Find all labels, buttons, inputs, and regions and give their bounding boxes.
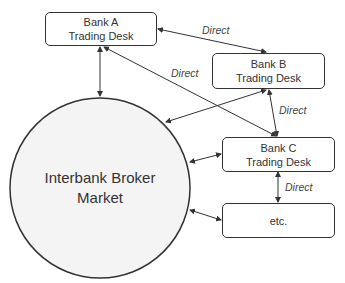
bank-a-line2: Trading Desk — [68, 29, 133, 43]
edge-etc-market — [190, 210, 221, 220]
edge-label-c-etc: Direct — [285, 181, 312, 193]
edge-c-market — [190, 154, 221, 162]
bank-a-node: Bank A Trading Desk — [45, 12, 157, 46]
edge-label-b-c: Direct — [279, 104, 306, 116]
bank-b-line2: Trading Desk — [236, 71, 301, 85]
bank-c-line2: Trading Desk — [246, 155, 311, 169]
bank-a-line1: Bank A — [84, 15, 119, 29]
etc-label: etc. — [270, 214, 288, 228]
market-node-label: Interbank Broker Market — [20, 168, 180, 208]
edge-label-a-b: Direct — [202, 24, 229, 36]
edge-b-c — [269, 90, 277, 136]
edge-b-market — [166, 90, 266, 122]
edge-label-a-c: Direct — [171, 67, 198, 79]
bank-b-node: Bank B Trading Desk — [212, 53, 325, 89]
etc-node: etc. — [222, 203, 335, 238]
market-line1: Interbank Broker — [20, 168, 180, 188]
bank-c-line1: Bank C — [260, 141, 296, 155]
bank-b-line1: Bank B — [251, 57, 286, 71]
bank-c-node: Bank C Trading Desk — [222, 137, 335, 172]
market-line2: Market — [20, 188, 180, 208]
